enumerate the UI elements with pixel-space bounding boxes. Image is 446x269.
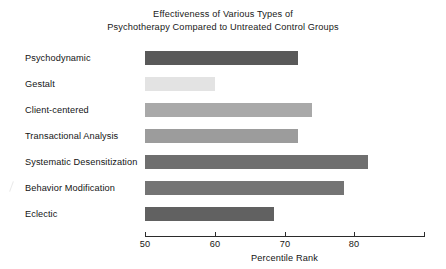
- x-axis-tick: [285, 232, 286, 237]
- x-axis-title: Percentile Rank: [145, 253, 424, 263]
- psychotherapy-effectiveness-chart: Effectiveness of Various Types of Psycho…: [0, 0, 446, 269]
- bar-row: Eclectic: [0, 201, 446, 227]
- bar-row: Behavior Modification: [0, 175, 446, 201]
- bar: [145, 77, 215, 91]
- bar-row: Client-centered: [0, 97, 446, 123]
- chart-title-line-1: Effectiveness of Various Types of: [0, 8, 446, 21]
- bar: [145, 181, 344, 195]
- category-label: Eclectic: [25, 201, 57, 227]
- category-label: Transactional Analysis: [25, 123, 118, 149]
- category-label: Client-centered: [25, 97, 89, 123]
- bar-row: Systematic Desensitization: [0, 149, 446, 175]
- x-axis-tick: [354, 232, 355, 237]
- x-axis-tick: [215, 232, 216, 237]
- plot-area: PsychodynamicGestaltClient-centeredTrans…: [0, 40, 446, 236]
- category-label: Behavior Modification: [25, 175, 115, 201]
- chart-title-line-2: Psychotherapy Compared to Untreated Cont…: [0, 21, 446, 34]
- x-axis-tick-label: 50: [140, 239, 151, 249]
- bar: [145, 155, 368, 169]
- bar: [145, 129, 298, 143]
- bar-row: Psychodynamic: [0, 45, 446, 71]
- category-label: Psychodynamic: [25, 45, 91, 71]
- bar-row: Gestalt: [0, 71, 446, 97]
- x-axis-tick: [424, 232, 425, 237]
- x-axis-tick-label: 80: [349, 239, 360, 249]
- bar: [145, 51, 298, 65]
- bar-row: Transactional Analysis: [0, 123, 446, 149]
- x-axis-tick-label: 60: [210, 239, 221, 249]
- x-axis-tick-label: 70: [280, 239, 291, 249]
- bar: [145, 207, 274, 221]
- category-label: Systematic Desensitization: [25, 149, 137, 175]
- bar: [145, 103, 312, 117]
- x-axis: 50607080 Percentile Rank: [0, 236, 446, 269]
- chart-title: Effectiveness of Various Types of Psycho…: [0, 8, 446, 33]
- category-label: Gestalt: [25, 71, 55, 97]
- x-axis-tick: [145, 232, 146, 237]
